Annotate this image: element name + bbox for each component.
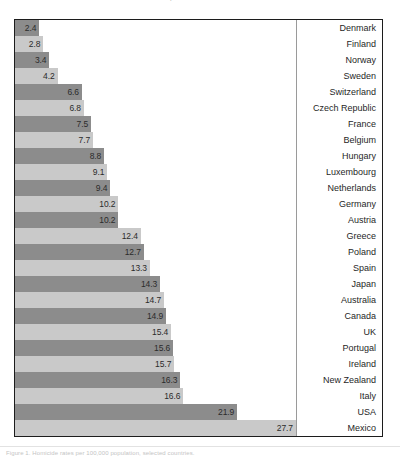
bar: 6.6: [15, 84, 82, 100]
bar-track: 8.8: [15, 148, 296, 164]
bar-value-label: 14.3: [141, 280, 157, 289]
bar: 10.2: [15, 196, 118, 212]
category-label-cell: New Zealand: [296, 372, 382, 388]
bar-row: 7.7Belgium: [15, 132, 382, 148]
bar-track: 16.3: [15, 372, 296, 388]
bar-track: 2.4: [15, 20, 296, 36]
bar: 9.4: [15, 180, 110, 196]
bar-track: 15.7: [15, 356, 296, 372]
bar: 6.8: [15, 100, 84, 116]
bar: 12.4: [15, 228, 141, 244]
category-label-cell: Finland: [296, 36, 382, 52]
bar: 10.2: [15, 212, 118, 228]
bar-row: 6.6Switzerland: [15, 84, 382, 100]
bar-track: 13.3: [15, 260, 296, 276]
bar-track: 4.2: [15, 68, 296, 84]
category-label: Greece: [346, 232, 376, 241]
category-label-cell: Poland: [296, 244, 382, 260]
category-label: Spain: [353, 264, 376, 273]
bar-row: 14.9Canada: [15, 308, 382, 324]
bar-row: 13.3Spain: [15, 260, 382, 276]
bar: 2.4: [15, 20, 39, 36]
chart-plot-area: 2.4Denmark2.8Finland3.4Norway4.2Sweden6.…: [15, 20, 382, 436]
category-label: Norway: [345, 56, 376, 65]
category-label-cell: Greece: [296, 228, 382, 244]
bar-value-label: 7.7: [79, 136, 91, 145]
category-label-cell: Japan: [296, 276, 382, 292]
category-label: Denmark: [339, 24, 376, 33]
bar-track: 7.5: [15, 116, 296, 132]
category-label-cell: Spain: [296, 260, 382, 276]
bar-track: 14.7: [15, 292, 296, 308]
category-label: Germany: [339, 200, 376, 209]
bar: 7.7: [15, 132, 93, 148]
bar: 3.4: [15, 52, 49, 68]
category-label-cell: Ireland: [296, 356, 382, 372]
bar: 7.5: [15, 116, 91, 132]
category-label-cell: UK: [296, 324, 382, 340]
clipped-title-fragment: p: [0, 0, 400, 12]
bar-value-label: 14.9: [147, 312, 163, 321]
bar-track: 27.7: [15, 420, 296, 436]
bar-track: 9.1: [15, 164, 296, 180]
bar: 12.7: [15, 244, 144, 260]
bar-row: 15.6Portugal: [15, 340, 382, 356]
category-label-cell: Austria: [296, 212, 382, 228]
bar-row: 10.2Austria: [15, 212, 382, 228]
bar-value-label: 8.8: [90, 152, 102, 161]
bar: 9.1: [15, 164, 107, 180]
bar: 16.3: [15, 372, 180, 388]
bar: 14.9: [15, 308, 166, 324]
bar-track: 12.4: [15, 228, 296, 244]
category-label: Poland: [348, 248, 376, 257]
category-label: Japan: [351, 280, 376, 289]
bar-value-label: 15.6: [154, 344, 170, 353]
bar-value-label: 3.4: [35, 56, 47, 65]
bar-row: 6.8Czech Republic: [15, 100, 382, 116]
bar: 14.3: [15, 276, 160, 292]
category-label-cell: Denmark: [296, 20, 382, 36]
bar-value-label: 12.4: [122, 232, 138, 241]
category-label: Netherlands: [327, 184, 376, 193]
bar-value-label: 2.4: [25, 24, 37, 33]
category-label-cell: Australia: [296, 292, 382, 308]
category-label: USA: [357, 408, 376, 417]
bar-value-label: 13.3: [131, 264, 147, 273]
category-label: Canada: [344, 312, 376, 321]
category-label: Sweden: [343, 72, 376, 81]
bar-row: 16.3New Zealand: [15, 372, 382, 388]
bar-track: 14.9: [15, 308, 296, 324]
bar-row: 21.9USA: [15, 404, 382, 420]
bar-track: 14.3: [15, 276, 296, 292]
category-label-cell: Czech Republic: [296, 100, 382, 116]
bar: 2.8: [15, 36, 43, 52]
bar: 14.7: [15, 292, 164, 308]
category-label: France: [348, 120, 376, 129]
bar: 8.8: [15, 148, 104, 164]
bar-track: 7.7: [15, 132, 296, 148]
bar-value-label: 16.6: [164, 392, 180, 401]
category-label: Luxembourg: [326, 168, 376, 177]
bar-track: 2.8: [15, 36, 296, 52]
category-label-cell: Canada: [296, 308, 382, 324]
bar-row: 15.4UK: [15, 324, 382, 340]
bar-value-label: 4.2: [43, 72, 55, 81]
category-label: Belgium: [343, 136, 376, 145]
bar-value-label: 15.7: [155, 360, 171, 369]
bar-value-label: 9.4: [96, 184, 108, 193]
clipped-caption-fragment: Figure 1. Homicide rates per 100,000 pop…: [0, 449, 400, 461]
bar-track: 21.9: [15, 404, 296, 420]
category-label: UK: [363, 328, 376, 337]
bar-row: 27.7Mexico: [15, 420, 382, 436]
bar-value-label: 9.1: [93, 168, 105, 177]
bar-value-label: 16.3: [161, 376, 177, 385]
bar-row: 15.7Ireland: [15, 356, 382, 372]
bar: 13.3: [15, 260, 150, 276]
bar-row: 14.7Australia: [15, 292, 382, 308]
bar-row: 10.2Germany: [15, 196, 382, 212]
bar-track: 16.6: [15, 388, 296, 404]
bar: 16.6: [15, 388, 183, 404]
bar-row: 9.4Netherlands: [15, 180, 382, 196]
category-label-cell: USA: [296, 404, 382, 420]
category-label: Ireland: [348, 360, 376, 369]
